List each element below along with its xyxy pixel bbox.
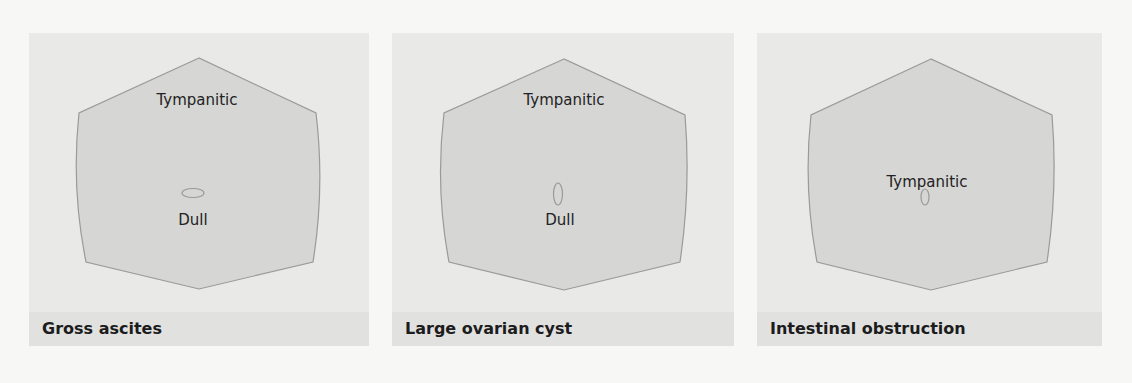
caption-band: Gross ascites: [29, 312, 369, 346]
panel-caption: Gross ascites: [42, 319, 162, 338]
panel-large-ovarian-cyst: Tympanitic Dull Large ovarian cyst: [392, 33, 734, 346]
tympanitic-label: Tympanitic: [887, 173, 968, 191]
panel-gross-ascites: Tympanitic Dull Gross ascites: [29, 33, 369, 346]
abdomen-outline-icon: [29, 33, 369, 313]
tympanitic-label: Tympanitic: [524, 91, 605, 109]
dull-label: Dull: [178, 211, 207, 229]
dull-label: Dull: [545, 211, 574, 229]
panel-caption: Large ovarian cyst: [405, 319, 572, 338]
caption-band: Intestinal obstruction: [757, 312, 1102, 346]
panel-intestinal-obstruction: Tympanitic Intestinal obstruction: [757, 33, 1102, 346]
tympanitic-label: Tympanitic: [157, 91, 238, 109]
abdomen-outline-icon: [392, 33, 734, 313]
caption-band: Large ovarian cyst: [392, 312, 734, 346]
panel-caption: Intestinal obstruction: [770, 319, 966, 338]
